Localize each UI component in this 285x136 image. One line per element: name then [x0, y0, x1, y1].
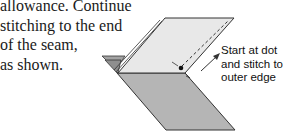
- callout-line: outer edge: [221, 71, 283, 85]
- callout-line: and stitch to: [221, 58, 283, 72]
- fabric-bottom-panel: [117, 73, 235, 130]
- start-dot: [179, 66, 184, 71]
- diagram-callout: Start at dot and stitch to outer edge: [221, 44, 283, 85]
- fabric-flap-lower: [105, 60, 121, 73]
- direction-arrow-shaft: [201, 56, 217, 71]
- callout-line: Start at dot: [221, 44, 283, 58]
